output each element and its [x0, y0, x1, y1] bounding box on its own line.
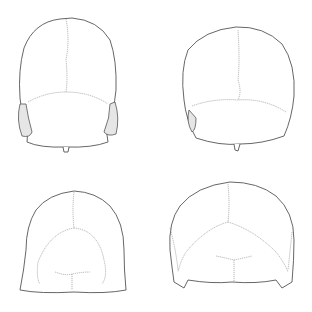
skull-drawings — [0, 0, 312, 312]
panel-top-right-skull — [183, 27, 295, 151]
skull-illustration — [0, 0, 312, 312]
panel-top-left-skull — [18, 18, 117, 152]
panel-bottom-left-skull — [20, 191, 126, 293]
panel-bottom-right-skull — [170, 182, 294, 288]
